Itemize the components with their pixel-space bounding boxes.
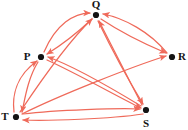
graph-edge-t-to-s bbox=[23, 109, 140, 114]
graph-edge-t-to-r bbox=[22, 56, 166, 114]
graph-edge-s-to-p bbox=[48, 57, 141, 106]
node-dot-s bbox=[143, 107, 149, 113]
node-label-q: Q bbox=[92, 0, 101, 10]
graph-edge-p-to-s bbox=[47, 60, 141, 108]
node-label-s: S bbox=[143, 117, 149, 129]
directed-graph-diagram: PQRST bbox=[0, 0, 188, 130]
graph-edge-q-to-p bbox=[47, 19, 92, 54]
node-dot-t bbox=[13, 114, 19, 120]
node-label-t: T bbox=[1, 110, 9, 122]
graph-node-r: R bbox=[169, 50, 187, 62]
node-dot-q bbox=[93, 12, 99, 18]
graph-edge-q-to-r bbox=[101, 19, 166, 53]
graph-node-p: P bbox=[24, 50, 44, 62]
node-dot-p bbox=[38, 54, 44, 60]
graph-edge-s-to-t bbox=[23, 114, 143, 120]
graph-edges bbox=[14, 13, 167, 120]
graph-node-t: T bbox=[1, 110, 19, 122]
graph-node-q: Q bbox=[92, 0, 101, 18]
graph-node-s: S bbox=[143, 107, 149, 129]
node-dot-r bbox=[169, 54, 175, 60]
graph-canvas: PQRST bbox=[0, 0, 188, 130]
node-label-r: R bbox=[178, 50, 187, 62]
node-label-p: P bbox=[24, 50, 31, 62]
